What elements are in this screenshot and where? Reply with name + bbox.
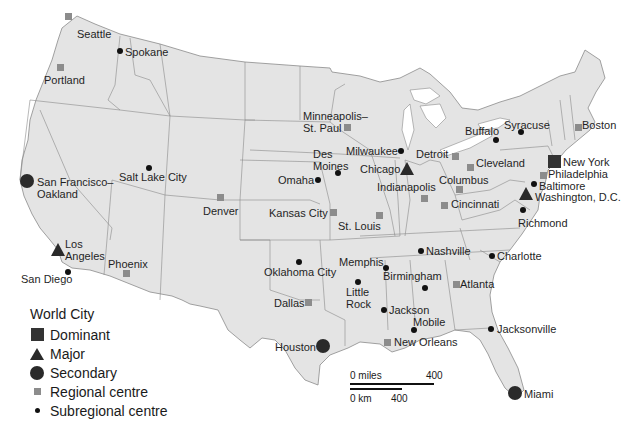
legend-title: World City	[30, 306, 168, 323]
marker-jackson[interactable]	[381, 307, 387, 313]
marker-miami[interactable]	[508, 386, 522, 400]
marker-minneapolis[interactable]	[344, 124, 351, 131]
marker-spokane[interactable]	[117, 48, 123, 54]
marker-philadelphia[interactable]	[540, 172, 547, 179]
legend-label: Dominant	[50, 327, 110, 343]
label-seattle: Seattle	[77, 28, 111, 40]
legend-label: Subregional centre	[50, 403, 168, 419]
marker-dallas[interactable]	[305, 299, 312, 306]
label-houston: Houston	[275, 341, 316, 353]
label-moines: Moines	[313, 160, 348, 172]
marker-birmingham[interactable]	[422, 285, 428, 291]
legend-item-regional: Regional centre	[30, 382, 168, 401]
label-cincinnati: Cincinnati	[451, 198, 499, 210]
label-jacksonville: Jacksonville	[497, 323, 556, 335]
marker-little-rock[interactable]	[355, 279, 361, 285]
dot-icon	[30, 408, 44, 413]
label-minneapolis: Minneapolis–	[303, 110, 368, 122]
label-buffalo: Buffalo	[465, 125, 499, 137]
marker-buffalo[interactable]	[493, 137, 499, 143]
label-omaha: Omaha	[278, 174, 314, 186]
marker-omaha[interactable]	[315, 177, 321, 183]
marker-new-orleans[interactable]	[384, 339, 391, 346]
marker-cleveland[interactable]	[467, 164, 474, 171]
marker-chicago[interactable]	[400, 162, 414, 175]
marker-new-york[interactable]	[548, 155, 561, 168]
label-new-york: New York	[563, 156, 609, 168]
label-milwaukee: Milwaukee	[346, 145, 398, 157]
label-spokane: Spokane	[125, 46, 168, 58]
label-boston: Boston	[582, 119, 616, 131]
marker-cincinnati[interactable]	[441, 202, 448, 209]
label-san-francisco: San Francisco–	[37, 176, 113, 188]
marker-oklahoma-city[interactable]	[296, 259, 302, 265]
marker-san-francisco-oakland[interactable]	[20, 174, 34, 188]
label-salt-lake-city: Salt Lake City	[119, 171, 187, 183]
marker-milwaukee[interactable]	[398, 148, 404, 154]
marker-jacksonville[interactable]	[488, 326, 494, 332]
label-angeles: Angeles	[65, 250, 105, 262]
label-jackson: Jackson	[389, 304, 429, 316]
marker-kansas-city[interactable]	[330, 209, 337, 216]
label-richmond: Richmond	[518, 217, 568, 229]
triangle-icon	[30, 348, 44, 360]
label-miami: Miami	[524, 388, 553, 400]
label-des: Des	[313, 148, 333, 160]
label-san-diego: San Diego	[21, 273, 72, 285]
marker-los-angeles[interactable]	[51, 243, 65, 256]
marker-boston[interactable]	[575, 124, 582, 131]
legend: World City Dominant Major Secondary Regi…	[30, 306, 168, 420]
marker-columbus[interactable]	[456, 186, 463, 193]
label-phoenix: Phoenix	[108, 258, 148, 270]
marker-portland[interactable]	[57, 64, 64, 71]
marker-charlotte[interactable]	[489, 253, 495, 259]
label-memphis: Memphis	[339, 256, 384, 268]
legend-item-major: Major	[30, 344, 168, 363]
square-small-icon	[30, 388, 44, 395]
label-syracuse: Syracuse	[504, 119, 550, 131]
scale-miles-label: 0 miles	[350, 370, 382, 381]
legend-item-dominant: Dominant	[30, 325, 168, 344]
scale-km-bar	[350, 388, 402, 390]
marker-houston[interactable]	[316, 339, 330, 353]
label-detroit: Detroit	[416, 148, 448, 160]
legend-item-subregional: Subregional centre	[30, 401, 168, 420]
label-st-paul: St. Paul	[303, 122, 342, 134]
marker-phoenix[interactable]	[123, 270, 130, 277]
label-st-louis: St. Louis	[338, 220, 381, 232]
label-charlotte: Charlotte	[497, 250, 542, 262]
label-rock: Rock	[346, 298, 371, 310]
marker-denver[interactable]	[217, 194, 224, 201]
label-philadelphia: Philadelphia	[548, 168, 608, 180]
marker-indianapolis[interactable]	[421, 195, 428, 202]
marker-st-louis[interactable]	[376, 212, 383, 219]
label-oklahoma-city: Oklahoma City	[264, 266, 336, 278]
marker-atlanta[interactable]	[453, 281, 460, 288]
label-little: Little	[346, 286, 369, 298]
label-birmingham: Birmingham	[383, 270, 442, 282]
label-columbus: Columbus	[439, 174, 489, 186]
label-new-orleans: New Orleans	[394, 336, 458, 348]
marker-richmond[interactable]	[520, 207, 526, 213]
label-kansas-city: Kansas City	[269, 207, 328, 219]
label-washington-dc: Washington, D.C.	[535, 191, 621, 203]
scale-miles-value: 400	[426, 370, 443, 381]
marker-washington-dc[interactable]	[519, 187, 533, 200]
label-mobile: Mobile	[413, 316, 445, 328]
square-large-icon	[30, 328, 44, 341]
marker-detroit[interactable]	[452, 153, 459, 160]
scale-km-value: 400	[391, 393, 408, 404]
legend-label: Major	[50, 346, 85, 362]
legend-label: Secondary	[50, 365, 117, 381]
label-portland: Portland	[44, 74, 85, 86]
label-indianapolis: Indianapolis	[377, 181, 436, 193]
marker-seattle[interactable]	[65, 13, 72, 20]
label-cleveland: Cleveland	[476, 157, 525, 169]
label-oakland: Oakland	[37, 188, 78, 200]
label-dallas: Dallas	[274, 297, 305, 309]
label-atlanta: Atlanta	[460, 278, 494, 290]
scale-miles-bar	[350, 383, 434, 385]
marker-nashville[interactable]	[418, 248, 424, 254]
circle-large-icon	[30, 366, 44, 380]
label-los: Los	[65, 238, 83, 250]
